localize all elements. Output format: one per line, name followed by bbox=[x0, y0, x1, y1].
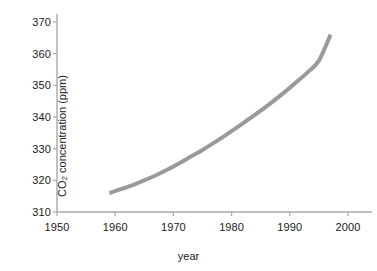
y-tick-label: 330 bbox=[18, 143, 51, 155]
x-tick-label: 1960 bbox=[103, 221, 128, 233]
x-tick-label: 1970 bbox=[161, 221, 186, 233]
x-axis-label: year bbox=[0, 250, 377, 262]
y-tick-label: 340 bbox=[18, 111, 51, 123]
y-tick-label: 310 bbox=[18, 206, 51, 218]
y-axis-label: CO2 concentration (ppm) bbox=[56, 75, 69, 197]
x-tick-label: 1980 bbox=[219, 221, 244, 233]
y-tick-label: 350 bbox=[18, 79, 51, 91]
data-line-0 bbox=[109, 35, 330, 193]
y-axis-label-subscript: 2 bbox=[60, 175, 69, 179]
x-tick-label: 2000 bbox=[336, 221, 361, 233]
x-tick-label: 1950 bbox=[45, 221, 70, 233]
y-axis-label-prefix: CO bbox=[56, 180, 68, 197]
y-tick-label: 320 bbox=[18, 174, 51, 186]
y-tick-label: 360 bbox=[18, 48, 51, 60]
chart-figure: 310320330340350360370 195019601970198019… bbox=[0, 0, 377, 271]
y-axis-label-suffix: concentration (ppm) bbox=[56, 75, 68, 176]
x-tick-label: 1990 bbox=[277, 221, 302, 233]
data-series-group bbox=[109, 35, 330, 193]
y-tick-label: 370 bbox=[18, 16, 51, 28]
